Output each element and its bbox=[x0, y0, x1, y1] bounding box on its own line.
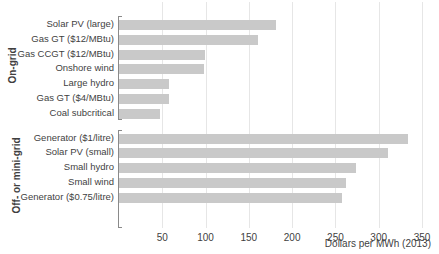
category-label: Generator ($1/litre) bbox=[34, 132, 114, 144]
bar bbox=[119, 20, 276, 30]
bar-row: Small wind bbox=[119, 178, 422, 188]
category-label: Generator ($0.75/litre) bbox=[21, 191, 114, 203]
group-label-off-grid: Off- or mini-grid bbox=[11, 128, 22, 224]
bar bbox=[119, 163, 356, 173]
category-label: Solar PV (small) bbox=[45, 146, 114, 158]
bar bbox=[119, 50, 205, 60]
x-tick-label: 150 bbox=[241, 232, 258, 243]
x-tick-label: 100 bbox=[197, 232, 214, 243]
category-label: Gas CCGT ($12/MBtu) bbox=[18, 48, 114, 60]
bar-row: Gas GT ($4/MBtu) bbox=[119, 94, 422, 104]
category-label: Coal subcritical bbox=[50, 107, 114, 119]
category-label: Small hydro bbox=[64, 161, 114, 173]
bar bbox=[119, 148, 388, 158]
bar-row: Solar PV (large) bbox=[119, 20, 422, 30]
bar bbox=[119, 94, 169, 104]
bar-row: Gas CCGT ($12/MBtu) bbox=[119, 50, 422, 60]
category-label: Onshore wind bbox=[55, 62, 114, 74]
bar-row: Gas GT ($12/MBtu) bbox=[119, 35, 422, 45]
bar-chart: On-grid Off- or mini-grid Solar PV (larg… bbox=[0, 0, 439, 254]
category-label: Gas GT ($4/MBtu) bbox=[37, 92, 114, 104]
bar bbox=[119, 134, 408, 144]
bar bbox=[119, 109, 160, 119]
bar bbox=[119, 193, 342, 203]
x-tick-label: 50 bbox=[157, 232, 168, 243]
category-label: Gas GT ($12/MBtu) bbox=[31, 33, 114, 45]
bar-row: Large hydro bbox=[119, 79, 422, 89]
plot-area: Solar PV (large)Gas GT ($12/MBtu)Gas CCG… bbox=[119, 16, 422, 228]
bar-row: Onshore wind bbox=[119, 64, 422, 74]
bar-row: Solar PV (small) bbox=[119, 148, 422, 158]
bar-row: Generator ($1/litre) bbox=[119, 134, 422, 144]
bar bbox=[119, 178, 346, 188]
category-label: Large hydro bbox=[63, 77, 114, 89]
bar-row: Generator ($0.75/litre) bbox=[119, 193, 422, 203]
category-label: Small wind bbox=[68, 176, 114, 188]
bar bbox=[119, 35, 258, 45]
x-tick-label: 200 bbox=[284, 232, 301, 243]
gridline bbox=[422, 2, 423, 228]
bar-row: Small hydro bbox=[119, 163, 422, 173]
bar bbox=[119, 64, 204, 74]
group-label-on-grid: On-grid bbox=[7, 36, 18, 96]
bar-row: Coal subcritical bbox=[119, 109, 422, 119]
bar bbox=[119, 79, 169, 89]
x-axis-title: Dollars per MWh (2013) bbox=[325, 238, 431, 249]
category-label: Solar PV (large) bbox=[46, 18, 114, 30]
